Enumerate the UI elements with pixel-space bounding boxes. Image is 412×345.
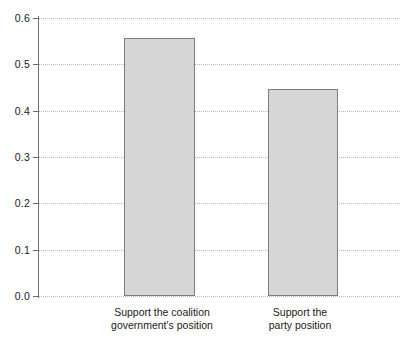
y-tick-label-0.6: 0.6 bbox=[15, 13, 30, 24]
plot-area bbox=[38, 18, 400, 296]
gridline-0.2 bbox=[38, 203, 400, 204]
y-tick-0.3 bbox=[33, 157, 38, 158]
x-axis-label-support-party-position: Support the party position bbox=[238, 306, 362, 331]
y-tick-label-0.4: 0.4 bbox=[15, 106, 30, 117]
bar-support-party-position bbox=[268, 89, 338, 296]
y-tick-0.0 bbox=[33, 296, 38, 297]
gridline-0.0 bbox=[38, 296, 400, 297]
y-tick-0.2 bbox=[33, 203, 38, 204]
y-tick-label-0.1: 0.1 bbox=[15, 245, 30, 256]
gridline-0.5 bbox=[38, 64, 400, 65]
y-tick-label-0.2: 0.2 bbox=[15, 198, 30, 209]
y-tick-label-0.0: 0.0 bbox=[15, 291, 30, 302]
y-tick-0.6 bbox=[33, 18, 38, 19]
gridline-0.3 bbox=[38, 157, 400, 158]
gridline-0.4 bbox=[38, 111, 400, 112]
y-tick-label-0.3: 0.3 bbox=[15, 152, 30, 163]
gridline-0.1 bbox=[38, 250, 400, 251]
y-axis-line bbox=[38, 16, 39, 298]
bar-chart: 0.6 0.5 0.4 0.3 0.2 0.1 0.0 Support the … bbox=[0, 0, 412, 345]
x-axis-label-support-coalition-government-position: Support the coalition government's posit… bbox=[84, 306, 240, 331]
gridline-0.6 bbox=[38, 18, 400, 19]
y-tick-0.4 bbox=[33, 111, 38, 112]
y-tick-label-0.5: 0.5 bbox=[15, 59, 30, 70]
y-tick-0.1 bbox=[33, 250, 38, 251]
y-tick-0.5 bbox=[33, 64, 38, 65]
bar-support-coalition-government-position bbox=[124, 38, 195, 296]
